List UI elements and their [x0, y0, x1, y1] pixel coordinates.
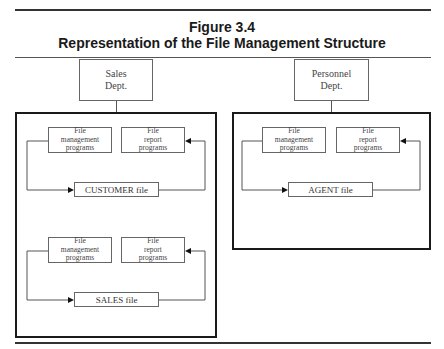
flow-arrows — [0, 0, 444, 349]
file-to-report-arrow — [159, 141, 205, 190]
mgmt-to-file-arrow — [27, 141, 70, 190]
bottom-rule — [15, 342, 431, 344]
